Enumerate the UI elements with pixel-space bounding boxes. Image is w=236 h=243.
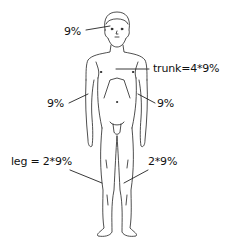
right-arm-label: 9% xyxy=(157,98,174,109)
left-leg-leader xyxy=(70,170,102,183)
left-leg-label: leg = 2*9% xyxy=(11,156,72,167)
right-leg-label: 2*9% xyxy=(148,156,177,167)
body-figure xyxy=(0,0,236,243)
left-arm-leader xyxy=(69,94,88,103)
groin-outline xyxy=(110,122,124,134)
head-label: 9% xyxy=(64,26,81,37)
torso-outline xyxy=(86,45,147,128)
trunk-label: trunk=4*9% xyxy=(153,63,219,74)
right-leg-leader xyxy=(124,170,148,183)
arms-outline xyxy=(86,80,148,147)
left-arm-label: 9% xyxy=(47,98,64,109)
right-arm-leader xyxy=(138,94,155,103)
head-outline xyxy=(105,12,130,47)
head-leader xyxy=(86,26,110,30)
leader-lines xyxy=(69,26,155,183)
legs-outline xyxy=(97,128,136,236)
